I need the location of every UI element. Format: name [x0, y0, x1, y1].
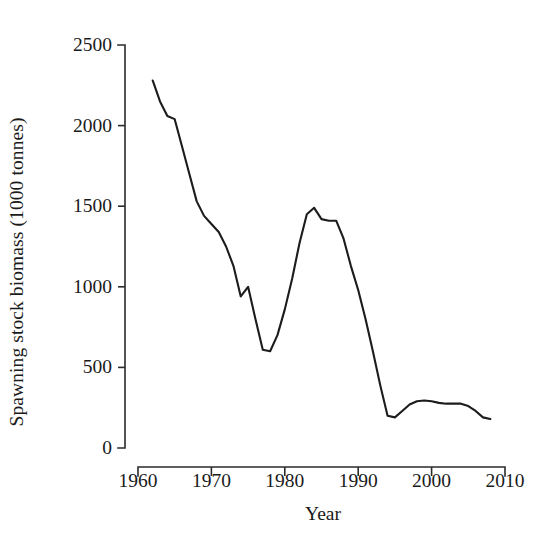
- data-series-line: [153, 80, 491, 419]
- x-axis-ticks: [211, 467, 431, 476]
- chart-figure: Spawning stock biomass (1000 tonnes) 050…: [0, 0, 557, 544]
- axes-group: [118, 45, 505, 476]
- y-tick-label: 2500: [73, 34, 112, 56]
- y-tick-label: 2000: [73, 115, 112, 137]
- x-tick-label: 1980: [265, 470, 304, 492]
- x-tick-label: 2000: [412, 470, 451, 492]
- y-tick-label: 1500: [73, 195, 112, 217]
- x-tick-label: 1970: [192, 470, 231, 492]
- x-tick-label: 1990: [339, 470, 378, 492]
- y-axis-tick-labels: 05001000150020002500: [0, 0, 112, 544]
- x-tick-label: 1960: [119, 470, 158, 492]
- y-axis-line: [118, 45, 125, 448]
- y-tick-label: 0: [102, 437, 112, 459]
- x-tick-label: 2010: [486, 470, 525, 492]
- y-tick-label: 1000: [73, 276, 112, 298]
- x-axis-title: Year: [138, 503, 508, 525]
- y-axis-ticks: [118, 126, 125, 368]
- y-tick-label: 500: [83, 356, 112, 378]
